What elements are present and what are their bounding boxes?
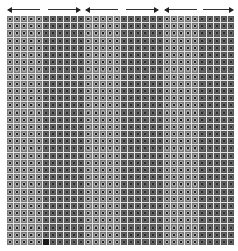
cell-dot (130, 212, 132, 214)
cell-dot (80, 234, 82, 236)
grid-cell (21, 145, 27, 151)
grid-cell (150, 59, 156, 65)
grid-cell (178, 153, 184, 159)
cell-dot (38, 140, 40, 142)
cell-dot (30, 76, 32, 78)
cell-dot (52, 90, 54, 92)
cell-dot (66, 61, 68, 63)
cell-dot (123, 119, 125, 121)
cell-dot (59, 140, 61, 142)
grid-cell (178, 138, 184, 144)
cell-dot (209, 212, 211, 214)
grid-cell (64, 102, 70, 108)
cell-dot (80, 18, 82, 20)
grid-cell (43, 196, 49, 202)
grid-cell (214, 153, 220, 159)
grid-cell (78, 189, 84, 195)
grid-cell (135, 95, 141, 101)
cell-dot (52, 32, 54, 34)
cell-dot (137, 68, 139, 70)
cell-dot (173, 205, 175, 207)
cell-dot (59, 112, 61, 114)
grid-cell (221, 160, 227, 166)
cell-dot (16, 76, 18, 78)
cell-dot (223, 83, 225, 85)
grid-cell (157, 196, 163, 202)
grid-cell (43, 117, 49, 123)
arrow-left-icon (165, 7, 197, 13)
grid-cell (142, 30, 148, 36)
cell-dot (30, 25, 32, 27)
cell-dot (87, 90, 89, 92)
cell-dot (152, 112, 154, 114)
cell-dot (201, 97, 203, 99)
grid-cell (100, 117, 106, 123)
grid-cell (178, 232, 184, 238)
grid-cell (185, 38, 191, 44)
grid-cell (71, 232, 77, 238)
cell-dot (59, 212, 61, 214)
cell-dot (194, 227, 196, 229)
cell-dot (30, 191, 32, 193)
cell-dot (23, 83, 25, 85)
grid-cell (85, 52, 91, 58)
grid-cell (185, 88, 191, 94)
grid-cell (28, 95, 34, 101)
grid-cell (57, 30, 63, 36)
cell-dot (23, 162, 25, 164)
cell-dot (23, 133, 25, 135)
grid-cell (78, 145, 84, 151)
grid-cell (85, 153, 91, 159)
grid-cell (207, 224, 213, 230)
cell-dot (209, 40, 211, 42)
grid-cell (107, 117, 113, 123)
cell-dot (23, 212, 25, 214)
grid-cell (78, 117, 84, 123)
grid-cell (57, 217, 63, 223)
grid-cell (121, 167, 127, 173)
grid-cell (57, 167, 63, 173)
grid-cell (43, 239, 49, 245)
grid-cell (178, 23, 184, 29)
cell-dot (130, 90, 132, 92)
cell-dot (230, 162, 232, 164)
grid-cell (192, 174, 198, 180)
cell-dot (209, 126, 211, 128)
grid-cell (21, 102, 27, 108)
cell-dot (130, 104, 132, 106)
grid-cell (185, 23, 191, 29)
grid-cell (192, 59, 198, 65)
grid-cell (100, 109, 106, 115)
cell-dot (201, 198, 203, 200)
cell-dot (152, 32, 154, 34)
cell-dot (223, 40, 225, 42)
cell-dot (80, 25, 82, 27)
cell-dot (166, 219, 168, 221)
grid-cell (50, 138, 56, 144)
cell-dot (52, 234, 54, 236)
cell-dot (23, 119, 25, 121)
grid-cell (93, 153, 99, 159)
grid-cell (7, 81, 13, 87)
cell-dot (52, 169, 54, 171)
cell-dot (38, 205, 40, 207)
grid-cell (207, 95, 213, 101)
cell-dot (187, 176, 189, 178)
cell-dot (66, 198, 68, 200)
grid-cell (135, 45, 141, 51)
cell-dot (116, 234, 118, 236)
grid-cell (114, 88, 120, 94)
grid-cell (50, 102, 56, 108)
cell-dot (38, 162, 40, 164)
grid-cell (192, 145, 198, 151)
grid-cell (7, 189, 13, 195)
grid-cell (14, 217, 20, 223)
grid-cell (214, 38, 220, 44)
grid-cell (78, 109, 84, 115)
cell-dot (130, 219, 132, 221)
grid-cell (78, 59, 84, 65)
grid-cell (171, 138, 177, 144)
cell-dot (223, 133, 225, 135)
cell-dot (59, 183, 61, 185)
grid-cell (142, 189, 148, 195)
